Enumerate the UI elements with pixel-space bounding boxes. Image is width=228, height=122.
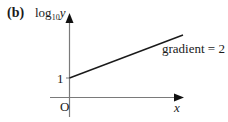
origin-label: O <box>60 100 69 113</box>
graph-canvas <box>0 0 228 122</box>
y-axis-arrow-icon <box>66 13 74 23</box>
x-axis-label: x <box>174 101 180 114</box>
intercept-label: 1 <box>57 72 64 85</box>
gradient-annotation: gradient = 2 <box>162 42 225 55</box>
